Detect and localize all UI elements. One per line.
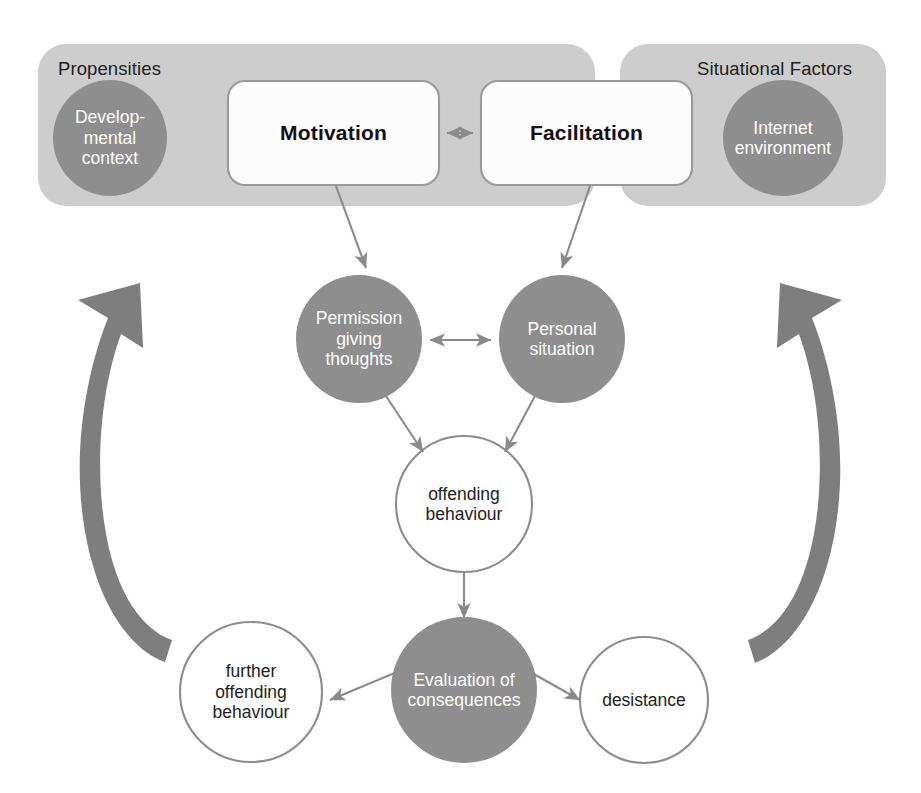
diagram-svg-layer (0, 0, 921, 793)
box-motivation-shape[interactable] (228, 81, 439, 185)
circle-developmental-context-shape (53, 80, 167, 196)
panel-title-propensities: Propensities (58, 58, 161, 80)
connector-right-feedback-loop (748, 283, 842, 663)
box-facilitation-shape[interactable] (481, 81, 692, 185)
connector-evaluation-to-further-offending-behaviour (330, 672, 397, 700)
connector-left-feedback-loop (78, 283, 172, 662)
connector-permission-giving-thoughts-to-offending-behaviour (386, 396, 423, 452)
circle-offending-behaviour-shape (396, 436, 532, 572)
circle-evaluation-of-consequences-shape (391, 617, 537, 763)
circle-permission-giving-thoughts-shape (296, 275, 422, 403)
circle-internet-environment-shape (723, 80, 843, 196)
circle-desistance-shape (580, 637, 708, 763)
connector-evaluation-to-desistance (532, 673, 580, 700)
connector-personal-situation-to-offending-behaviour (505, 396, 535, 452)
panel-title-situational-factors: Situational Factors (697, 58, 852, 80)
circle-personal-situation-shape (499, 275, 625, 403)
diagram-canvas: Propensities Situational Factors Motivat… (0, 0, 921, 793)
circle-further-offending-behaviour-shape (180, 622, 322, 762)
